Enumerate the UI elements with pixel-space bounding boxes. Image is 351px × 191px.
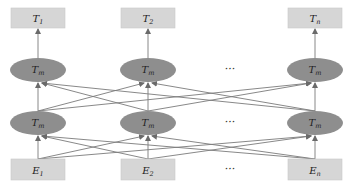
ellipsis-indicator: ··· [225,163,236,176]
connection-arrows [38,29,315,159]
arrow-input-to-lower [38,136,144,159]
transformer-architecture-diagram: T1T2TnTmTmTmTmTmTmE1E2En ········· [0,0,351,191]
ellipsis-indicator: ··· [225,116,236,129]
ellipsis-markers: ········· [225,63,236,176]
ellipsis-indicator: ··· [225,63,236,76]
arrow-lower-to-upper [42,83,148,111]
arrow-lower-to-upper [38,83,144,111]
arrow-input-to-lower [42,136,148,159]
